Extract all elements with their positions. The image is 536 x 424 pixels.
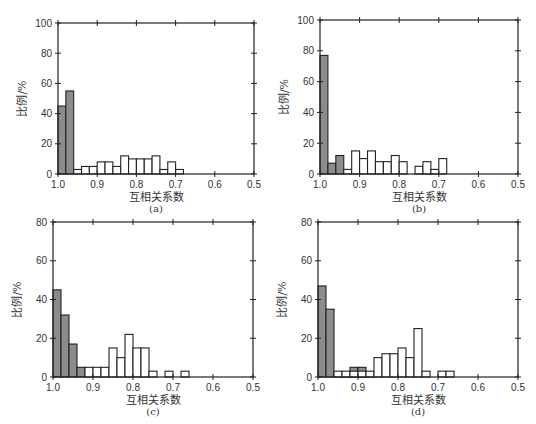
histogram-bar [152,156,160,174]
x-tick-label: 1.0 [51,179,65,190]
y-tick-label: 100 [297,15,314,26]
chart-panel-c: 0204060801.00.90.80.70.60.5互相关系数(c)比例/% [10,217,260,418]
x-tick-label: 0.7 [169,179,183,190]
histogram-bar [74,169,82,174]
histogram-bar [144,159,152,174]
histogram-bar [136,159,144,174]
histogram-bar [61,315,69,377]
plot-frame [320,20,518,174]
histogram-bar [399,162,407,174]
y-tick-label: 0 [308,169,314,180]
histogram-figure: 0204060801001.00.90.80.70.60.5互相关系数(a)比例… [0,0,536,424]
histogram-bar [320,55,328,174]
panel-caption: (d) [411,406,425,417]
x-tick-label: 1.0 [311,382,325,393]
histogram-bar [375,162,383,174]
x-tick-label: 0.5 [246,382,260,393]
y-tick-label: 60 [301,255,313,266]
y-tick-label: 60 [41,78,53,89]
y-tick-label: 100 [35,18,52,29]
histogram-bar [391,156,399,174]
histogram-bar [176,169,184,174]
histogram-bar [129,159,137,174]
histogram-bar [141,348,149,377]
x-tick-label: 0.9 [351,382,365,393]
histogram-bar [383,162,391,174]
x-tick-label: 0.5 [247,179,261,190]
x-tick-label: 0.6 [206,382,220,393]
histogram-bar [415,166,423,174]
x-tick-label: 0.9 [353,179,367,190]
x-tick-label: 0.6 [208,179,222,190]
histogram-bar [360,159,368,174]
x-axis-label: 互相关系数 [392,190,447,204]
histogram-bar [125,334,133,377]
histogram-bar [382,354,390,377]
x-tick-label: 0.5 [511,382,525,393]
y-tick-label: 60 [303,76,315,87]
chart-panel-b: 0204060801001.00.90.80.70.60.5互相关系数(b)比例… [277,15,525,215]
histogram-bar [350,371,358,377]
x-tick-label: 0.8 [391,382,405,393]
y-tick-label: 20 [41,138,53,149]
histogram-bar [58,106,66,174]
y-tick-label: 20 [36,333,48,344]
chart-panel-a: 0204060801001.00.90.80.70.60.5互相关系数(a)比例… [15,18,261,215]
histogram-bar [422,371,430,377]
histogram-bar [431,169,439,174]
histogram-bar [69,344,77,377]
histogram-bar [93,367,101,377]
x-tick-label: 0.8 [392,179,406,190]
y-tick-label: 80 [303,45,315,56]
x-tick-label: 0.6 [471,382,485,393]
histogram-bar [344,169,352,174]
y-tick-label: 80 [36,217,48,228]
panel-caption: (b) [412,203,426,214]
histogram-bar [113,166,121,174]
x-tick-label: 0.7 [431,382,445,393]
y-tick-label: 80 [41,48,53,59]
y-tick-label: 40 [301,294,313,305]
y-tick-label: 20 [301,333,313,344]
x-tick-label: 0.5 [511,179,525,190]
y-axis-label: 比例/% [277,79,291,115]
histogram-bar [366,371,374,377]
x-tick-label: 0.8 [126,382,140,393]
histogram-bar [97,162,105,174]
histogram-bar [121,156,129,174]
histogram-bar [446,371,454,377]
histogram-bar [85,367,93,377]
histogram-bar [328,163,336,174]
histogram-bar [334,371,342,377]
x-tick-label: 0.7 [432,179,446,190]
y-tick-label: 40 [303,107,315,118]
x-tick-label: 0.9 [90,179,104,190]
y-axis-label: 比例/% [275,281,289,317]
y-axis-label: 比例/% [15,80,29,116]
histogram-bar [398,348,406,377]
histogram-bar [423,162,431,174]
histogram-bar [326,309,334,377]
histogram-bar [181,371,189,377]
x-tick-label: 1.0 [313,179,327,190]
x-tick-label: 0.6 [471,179,485,190]
panel-caption: (c) [146,406,160,417]
x-tick-label: 1.0 [46,382,60,393]
x-tick-label: 0.8 [129,179,143,190]
histogram-bar [390,354,398,377]
y-tick-label: 0 [306,372,312,383]
histogram-bar [109,348,117,377]
chart-panel-d: 0204060801.00.90.80.70.60.5互相关系数(d)比例/% [275,217,525,418]
histogram-bar [368,151,376,174]
histogram-bar [374,358,382,377]
histogram-bar [89,166,97,174]
histogram-bar [160,169,168,174]
histogram-bar [117,358,125,377]
x-tick-label: 0.9 [86,382,100,393]
histogram-bar [105,162,113,174]
histogram-bar [53,290,61,377]
histogram-bar [77,367,85,377]
histogram-bar [133,348,141,377]
x-axis-label: 互相关系数 [391,393,446,407]
histogram-bar [149,371,157,377]
